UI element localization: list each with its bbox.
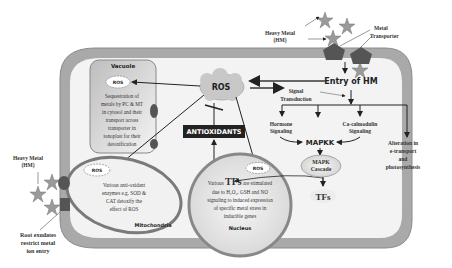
- membrane-transporter-left: [58, 176, 70, 190]
- mitochondria-text-line: Various anti-oxidant: [103, 182, 146, 188]
- star-icon: [339, 18, 355, 34]
- metal-transporter-pointer: [340, 30, 370, 46]
- alteration-label: Alteration in: [388, 140, 418, 146]
- hormone-signaling-label: Hormone: [270, 121, 293, 127]
- root-exudates-label: Root exudates: [20, 232, 57, 238]
- vacuole-text-line: detoxification: [108, 141, 137, 147]
- ca-calmodulin-label: Signaling: [349, 128, 371, 134]
- mapkk-label: MAPKK: [306, 139, 335, 147]
- tonoplast-transporter: [150, 139, 158, 149]
- root-exudates-label: ion entry: [26, 248, 49, 254]
- mitochondria-text-line: CAT detoxify the: [106, 198, 143, 204]
- heavy-metal-pointer: [305, 17, 319, 26]
- metal-transporter-label: Metal: [374, 25, 388, 31]
- vacuole-text-line: transport across: [106, 117, 139, 123]
- nucleus-text-line: signaling to induced expression: [207, 197, 273, 203]
- mitochondria-title: Mitochondria: [134, 222, 171, 228]
- root-exudate-block: [60, 198, 70, 211]
- hm-stress-diagram: Vacuole ROS Sequestration of metals by P…: [0, 0, 452, 268]
- entry-of-hm-label: Entry of HM: [324, 77, 377, 86]
- mapk-cascade-label: MAPK: [312, 159, 330, 165]
- antioxidants-label: ANTIOXIDANTS: [186, 128, 241, 136]
- heavy-metal-top-label: Heavy Metal: [265, 30, 296, 36]
- mitochondria-text-line: enzymes e.g. SOD &: [102, 190, 146, 196]
- hormone-signaling-label: Signaling: [270, 128, 292, 134]
- vacuole-text-line: Sequestration of: [105, 93, 139, 99]
- alteration-label: and: [399, 156, 408, 162]
- star-icon: [30, 186, 46, 202]
- vacuole-text-line: transporter in: [108, 125, 136, 131]
- tfs-label: TFs: [315, 192, 331, 202]
- nucleus-text-lead: Various: [208, 180, 225, 186]
- nucleus-title: Nucleus: [229, 225, 251, 231]
- mitochondria-ros: ROS: [92, 168, 103, 173]
- alteration-label: e-transport: [390, 148, 417, 154]
- mapk-cascade-label: Cascade: [311, 166, 332, 172]
- nucleus-ros: ROS: [253, 166, 264, 171]
- mitochondria-text-line: effect of ROS: [110, 206, 139, 212]
- metal-transporter-label: Transporter: [370, 33, 399, 39]
- nucleus-text-line: inducible genes: [224, 213, 256, 219]
- root-exudate-pointer: [40, 212, 60, 230]
- star-icon: [44, 174, 60, 190]
- vacuole-text-line: in cytosol and their: [102, 109, 142, 115]
- vacuole-title: Vacuole: [111, 63, 136, 69]
- ros-label: ROS: [212, 83, 231, 92]
- nucleus-text-line: of specific metal stress in: [214, 205, 267, 211]
- root-exudates-label: restrict metal: [21, 240, 56, 246]
- star-icon: [44, 199, 60, 215]
- signal-transduction-label: Transduction: [280, 96, 311, 102]
- vacuole-text: Sequestration of metals by PC & MT in cy…: [101, 93, 144, 147]
- alteration-label: photosynthesis: [386, 164, 421, 170]
- nucleus-text-tfs: TFs: [225, 176, 242, 187]
- vacuole-text-line: metals by PC & MT: [101, 101, 144, 107]
- vacuole-text-line: tonoplast for their: [103, 133, 140, 139]
- tonoplast-transporter: [150, 104, 158, 118]
- vacuole-ros: ROS: [113, 80, 124, 85]
- star-icon: [325, 30, 341, 46]
- nucleus-text-tail: are stimulated: [242, 180, 273, 186]
- metal-transporter-icon: [323, 43, 345, 60]
- star-icon: [317, 12, 333, 28]
- heavy-metal-left-label: Heavy Metal: [13, 155, 44, 161]
- heavy-metal-left-label: (HM): [21, 162, 34, 169]
- heavy-metal-top-label: (HM): [273, 37, 286, 44]
- ca-calmodulin-label: Ca-calmodulin: [343, 121, 378, 127]
- signal-transduction-label: Signal: [289, 88, 304, 94]
- nucleus-text-line: due to H₂O₂, GSH and NO: [212, 189, 268, 195]
